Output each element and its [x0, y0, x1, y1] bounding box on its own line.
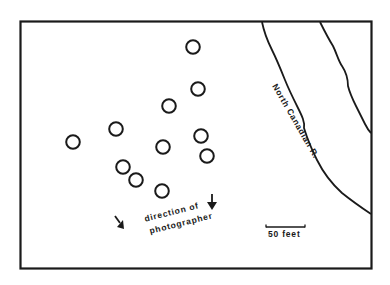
circle-marker	[129, 173, 143, 187]
circle-markers	[66, 40, 214, 198]
river-left-bank	[262, 22, 371, 214]
circle-marker	[156, 140, 170, 154]
map-canvas	[0, 0, 390, 285]
circle-marker	[116, 160, 130, 174]
circle-marker	[155, 184, 169, 198]
river-right-bank	[320, 22, 371, 133]
site-map: North Canadian R. direction of photograp…	[0, 0, 390, 285]
circle-marker	[194, 129, 208, 143]
arrow-down-right-icon	[115, 216, 124, 229]
circle-marker	[66, 135, 80, 149]
circle-marker	[200, 149, 214, 163]
circle-marker	[186, 40, 200, 54]
map-frame	[21, 22, 372, 269]
scale-bar	[266, 225, 305, 228]
circle-marker	[191, 82, 205, 96]
circle-marker	[162, 99, 176, 113]
circle-marker	[109, 122, 123, 136]
scale-label: 50 feet	[268, 229, 301, 239]
